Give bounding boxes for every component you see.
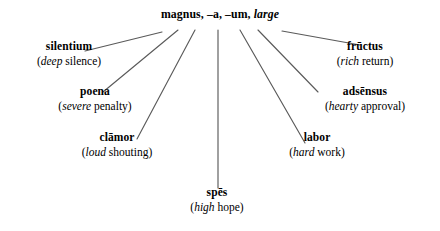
node-silentium-qualifier: deep — [41, 55, 63, 67]
node-labor-qualifier: hard — [293, 146, 314, 158]
node-fructus-term: frūctus — [290, 40, 440, 54]
node-spes-term: spēs — [142, 186, 292, 200]
node-silentium-gloss: (deep silence) — [0, 55, 144, 69]
node-poena: poena (severe penalty) — [20, 85, 170, 113]
word-association-diagram: magnus, –a, –um, large silentium (deep s… — [0, 0, 440, 231]
node-silentium-gloss-rest: silence — [62, 55, 97, 67]
node-clamor-qualifier: loud — [86, 146, 106, 158]
node-adsensus-gloss-rest: approval — [358, 100, 401, 112]
root-node: magnus, –a, –um, large — [0, 8, 440, 22]
node-poena-term: poena — [20, 85, 170, 99]
node-poena-gloss-rest: penalty — [91, 100, 128, 112]
node-adsensus: adsēnsus (hearty approval) — [290, 85, 440, 113]
root-node-term: magnus, –a, –um, large — [0, 8, 440, 22]
root-node-translation: large — [254, 7, 279, 21]
node-spes-gloss: (high hope) — [142, 201, 292, 215]
node-adsensus-term: adsēnsus — [290, 85, 440, 99]
node-clamor-term: clāmor — [42, 131, 192, 145]
node-poena-gloss: (severe penalty) — [20, 100, 170, 114]
node-spes: spēs (high hope) — [142, 186, 292, 214]
node-clamor-gloss: (loud shouting) — [42, 146, 192, 160]
node-labor-gloss: (hard work) — [242, 146, 392, 160]
node-fructus-qualifier: rich — [341, 55, 360, 67]
node-clamor: clāmor (loud shouting) — [42, 131, 192, 159]
node-spes-qualifier: high — [194, 201, 214, 213]
node-poena-qualifier: severe — [62, 100, 91, 112]
node-fructus-gloss: (rich return) — [290, 55, 440, 69]
node-silentium-term: silentium — [0, 40, 144, 54]
root-node-headword: magnus, –a, –um, — [161, 7, 251, 21]
node-labor-term: labor — [242, 131, 392, 145]
node-clamor-gloss-rest: shouting — [106, 146, 149, 158]
node-fructus: frūctus (rich return) — [290, 40, 440, 68]
node-fructus-gloss-rest: return — [359, 55, 389, 67]
node-labor: labor (hard work) — [242, 131, 392, 159]
node-spes-gloss-rest: hope — [215, 201, 240, 213]
node-adsensus-qualifier: hearty — [329, 100, 358, 112]
node-adsensus-gloss: (hearty approval) — [290, 100, 440, 114]
node-labor-gloss-rest: work — [314, 146, 341, 158]
node-silentium: silentium (deep silence) — [0, 40, 144, 68]
